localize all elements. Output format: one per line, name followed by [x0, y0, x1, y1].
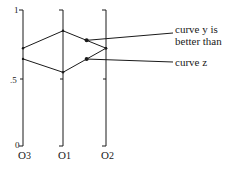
annotation-line-2: better than — [175, 35, 222, 47]
curve-y-point-O1 — [62, 30, 64, 32]
y-tick-label-0: 0 — [15, 140, 20, 150]
annotation-line-1: curve y is — [175, 23, 222, 35]
axis-label-O3: O3 — [18, 149, 31, 161]
y-tick-label-1: 1 — [14, 5, 19, 15]
curve-z-point-O3 — [22, 58, 24, 60]
curve-z-point-O1 — [62, 71, 64, 73]
axis-label-O2: O2 — [101, 149, 114, 161]
curve-y-point-O3 — [22, 47, 24, 49]
annotation-leader-y — [87, 33, 173, 40]
y-tick-label-half: .5 — [10, 75, 17, 85]
curve-z — [23, 48, 106, 72]
curve-z-point-O2 — [105, 47, 107, 49]
annotation-label-z: curve z — [175, 56, 207, 68]
annotation-line-1: curve z — [175, 56, 207, 68]
annotation-label-y: curve y isbetter than — [175, 23, 222, 47]
annotation-leader-z — [87, 59, 173, 62]
axis-label-O1: O1 — [58, 149, 71, 161]
